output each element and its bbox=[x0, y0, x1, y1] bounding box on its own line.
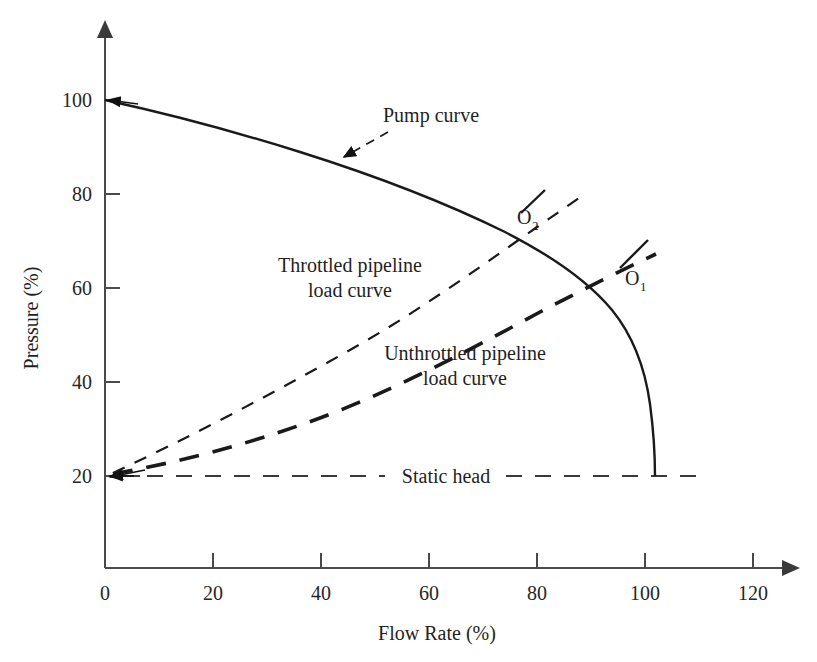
operating-point-o1-subscript: 1 bbox=[640, 279, 647, 294]
annotation-pump-curve-text: Pump curve bbox=[383, 104, 479, 127]
x-tick-labels: 0 20 40 60 80 100 120 bbox=[100, 582, 768, 604]
annotation-throttled-line2: load curve bbox=[308, 279, 392, 301]
figure-root: 100 80 60 40 20 0 20 40 60 80 100 120 Fl… bbox=[0, 0, 817, 662]
x-tick-label-100: 100 bbox=[630, 582, 660, 604]
x-tick-label-120: 120 bbox=[738, 582, 768, 604]
chart-canvas: 100 80 60 40 20 0 20 40 60 80 100 120 Fl… bbox=[0, 0, 817, 662]
operating-point-o1-tick bbox=[620, 240, 648, 268]
y-ticks-group bbox=[105, 100, 120, 476]
x-tick-label-0: 0 bbox=[100, 582, 110, 604]
y-tick-label-100: 100 bbox=[62, 89, 92, 111]
annotation-static-head-text: Static head bbox=[402, 465, 490, 487]
y-tick-label-80: 80 bbox=[72, 183, 92, 205]
operating-point-o1-group: O 1 bbox=[620, 240, 648, 294]
annotation-pump-curve-leader bbox=[344, 132, 388, 157]
operating-point-o2-label: O bbox=[517, 206, 531, 228]
throttled-pipeline-load-curve bbox=[113, 196, 582, 473]
operating-point-o2-group: O 2 bbox=[517, 190, 545, 233]
y-axis-title: Pressure (%) bbox=[20, 267, 43, 370]
x-tick-label-20: 20 bbox=[203, 582, 223, 604]
annotation-throttled-line1: Throttled pipeline bbox=[278, 254, 422, 277]
x-axis-title: Flow Rate (%) bbox=[378, 622, 496, 645]
x-tick-label-60: 60 bbox=[419, 582, 439, 604]
x-ticks-group bbox=[105, 553, 753, 568]
annotation-throttled-load-curve: Throttled pipeline load curve bbox=[278, 254, 422, 301]
annotation-pump-curve: Pump curve bbox=[344, 104, 479, 157]
operating-point-o2-subscript: 2 bbox=[532, 218, 539, 233]
annotation-unthrottled-load-curve: Unthrottled pipeline load curve bbox=[384, 342, 546, 389]
annotation-unthrottled-line1: Unthrottled pipeline bbox=[384, 342, 546, 365]
x-tick-label-80: 80 bbox=[527, 582, 547, 604]
y-tick-label-20: 20 bbox=[72, 465, 92, 487]
y-tick-labels: 100 80 60 40 20 bbox=[62, 89, 92, 487]
annotation-unthrottled-line2: load curve bbox=[423, 367, 507, 389]
operating-point-o1-label: O bbox=[625, 267, 639, 289]
x-tick-label-40: 40 bbox=[311, 582, 331, 604]
y-tick-label-60: 60 bbox=[72, 277, 92, 299]
y-tick-label-40: 40 bbox=[72, 371, 92, 393]
